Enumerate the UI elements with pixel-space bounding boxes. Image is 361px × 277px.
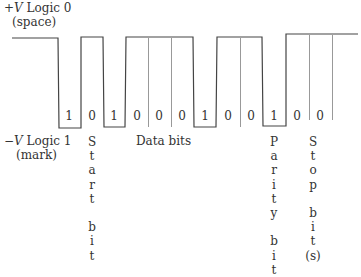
letter: t [85,192,99,206]
bit-value: 0 [245,109,257,123]
letter: i [85,234,99,248]
letter: r [267,163,281,177]
letter: t [267,192,281,206]
letter: y [267,206,281,220]
bit-value: 0 [176,109,188,123]
bit-value: 0 [222,109,234,123]
letter: t [303,234,323,248]
letter: a [85,163,99,177]
letter: t [303,149,323,163]
bit-value: 0 [131,109,143,123]
letter: t [85,249,99,263]
bit-value: 0 [314,109,326,123]
letter [85,206,99,220]
letter: (s) [303,249,323,263]
letter: i [267,249,281,263]
parity-bit-label: P a r i t y b i t [267,135,281,277]
bit-value: 0 [291,109,303,123]
bit-value: 1 [63,109,75,123]
bit-value: 0 [86,109,98,123]
letter: S [303,135,323,149]
stop-bits-label: S t o p b i t (s) [303,135,323,263]
letter: i [267,178,281,192]
bit-value: 1 [199,109,211,123]
bit-value: 0 [153,109,165,123]
letter: o [303,163,323,177]
letter: b [85,220,99,234]
letter: a [267,149,281,163]
letter: P [267,135,281,149]
letter: b [303,206,323,220]
letter [267,220,281,234]
bit-value: 1 [268,109,280,123]
letter: t [85,149,99,163]
start-bit-label: S t a r t b i t [85,135,99,263]
letter: p [303,178,323,192]
letter: i [303,220,323,234]
letter: S [85,135,99,149]
bit-value: 1 [108,109,120,123]
letter [303,192,323,206]
letter: t [267,263,281,277]
letter: b [267,234,281,248]
letter: r [85,178,99,192]
